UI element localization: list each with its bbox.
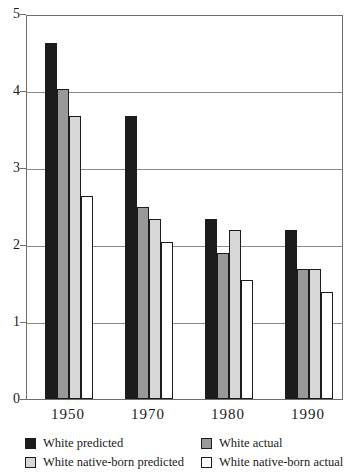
x-tick-label-1950: 1950 [36,405,100,423]
gridline-4 [27,92,342,93]
bar-1980-white-actual [217,253,229,399]
bar-1950-white-predicted [45,43,57,399]
legend-swatch-icon [201,457,212,468]
x-tick-label-1980: 1980 [196,405,260,423]
bar-1980-white-predicted [205,219,217,399]
legend-swatch-icon [201,438,212,449]
bar-1970-white-actual [137,207,149,399]
bar-1950-white-native-born-predicted [69,116,81,399]
y-tick-mark-1 [20,322,26,323]
y-tick-mark-4 [20,91,26,92]
y-tick-mark-2 [20,245,26,246]
legend-label: White native-born predicted [43,456,184,469]
legend-label: White actual [219,437,283,450]
legend-swatch-icon [25,438,36,449]
y-tick-mark-0 [20,399,26,400]
bar-1990-white-native-born-predicted [309,269,321,399]
bar-1970-white-native-born-predicted [149,219,161,399]
y-tick-label-1: 1 [0,314,20,330]
bar-1980-white-native-born-actual [241,280,253,399]
bar-1990-white-predicted [285,230,297,399]
x-tick-label-1970: 1970 [116,405,180,423]
y-tick-mark-5 [20,14,26,15]
y-tick-label-0: 0 [0,391,20,407]
y-tick-mark-3 [20,168,26,169]
legend-label: White predicted [43,437,123,450]
legend-label: White native-born actual [219,456,343,469]
y-tick-label-3: 3 [0,160,20,176]
bar-1970-white-predicted [125,116,137,399]
y-tick-label-5: 5 [0,6,20,22]
bar-1950-white-actual [57,89,69,399]
fertility-grouped-bar-chart: 012345 1950197019801990 White predictedW… [0,0,356,474]
bar-1990-white-actual [297,269,309,399]
plot-area [26,15,343,400]
y-tick-label-2: 2 [0,237,20,253]
bar-1980-white-native-born-predicted [229,230,241,399]
legend-swatch-icon [25,457,36,468]
y-tick-label-4: 4 [0,83,20,99]
legend: White predictedWhite native-born predict… [0,433,356,474]
bar-1990-white-native-born-actual [321,292,333,399]
bar-1950-white-native-born-actual [81,196,93,399]
bar-1970-white-native-born-actual [161,242,173,399]
x-tick-label-1990: 1990 [276,405,340,423]
